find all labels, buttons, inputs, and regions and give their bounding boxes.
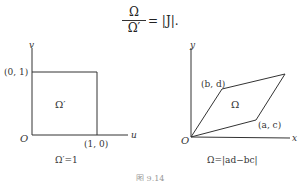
point-1-0-label: (1, 0)	[84, 139, 108, 149]
region-omega-label: Ω	[231, 99, 239, 110]
figure-caption: 图 9.14	[136, 172, 164, 181]
right-diagram: y x O (b, d) (a, c) Ω Ω=|ad−bc|	[181, 40, 297, 166]
u-axis-label: u	[131, 130, 137, 140]
point-0-1-label: (0, 1)	[4, 67, 28, 77]
x-axis	[191, 137, 290, 138]
region-omega-prime-label: Ω′	[55, 99, 66, 110]
v-axis-label: v	[29, 40, 34, 50]
point-b-d-label: (b, d)	[201, 79, 225, 89]
origin-label: O	[20, 133, 28, 144]
figure-diagrams: v u O (0, 1) (1, 0) Ω′ Ω′=1 y x O (b, d)…	[0, 0, 299, 181]
y-axis-label: y	[189, 40, 196, 50]
x-axis-label: x	[292, 133, 297, 143]
point-a-c-label: (a, c)	[258, 120, 281, 130]
origin-label: O	[181, 135, 189, 146]
left-caption: Ω′=1	[55, 155, 78, 165]
right-caption: Ω=|ad−bc|	[207, 155, 258, 166]
left-diagram: v u O (0, 1) (1, 0) Ω′ Ω′=1	[4, 40, 137, 165]
